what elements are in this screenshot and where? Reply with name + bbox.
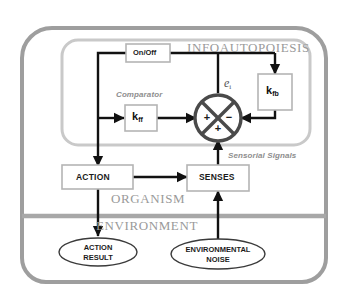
action-result-line-2: RESULT (68, 253, 128, 263)
region-title-environment: ENVIRONMENT (96, 219, 198, 232)
action-label: ACTION (76, 173, 110, 182)
action-result-line-1: ACTION (68, 243, 128, 253)
comparator-sign-left: + (201, 112, 213, 123)
onoff-label: On/Off (133, 49, 156, 57)
region-title-infoautopoiesis: INFOAUTOPOIESIS (187, 41, 310, 54)
comparator-sign-right: − (223, 112, 235, 123)
environmental-noise-label: ENVIRONMENTAL NOISE (173, 245, 263, 265)
kfb-subscript: fb (272, 90, 279, 97)
error-signal-label: ei (224, 77, 231, 89)
action-result-label: ACTION RESULT (68, 243, 128, 263)
kfb-to-comparator-arrow (241, 110, 275, 118)
annotation-sensorial-signals: Sensorial Signals (228, 152, 296, 160)
comparator-sign-bottom: + (212, 123, 224, 134)
kff-label: kff (132, 111, 143, 122)
diagram-canvas: INFOAUTOPOIESIS ORGANISM ENVIRONMENT Com… (0, 0, 361, 299)
kfb-label: kfb (266, 85, 279, 96)
kff-subscript: ff (138, 116, 143, 123)
region-title-organism: ORGANISM (111, 192, 185, 205)
onoff-to-left-spine (98, 53, 126, 118)
error-signal-subscript: i (229, 83, 231, 91)
senses-label: SENSES (199, 173, 235, 182)
annotation-comparator: Comparator (116, 91, 162, 99)
environmental-noise-line-2: NOISE (173, 255, 263, 265)
environmental-noise-line-1: ENVIRONMENTAL (173, 245, 263, 255)
